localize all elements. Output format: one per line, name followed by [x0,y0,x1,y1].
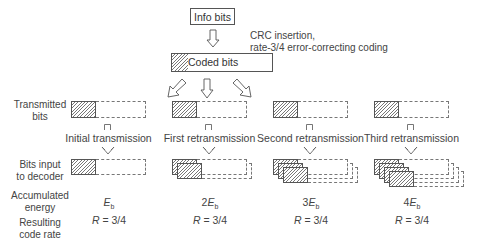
coded-bits-parity-hatch [172,54,188,71]
rate-value: = 3/4 [201,214,228,226]
decoder-stack-parity [283,167,308,183]
rate-value: = 3/4 [403,214,430,226]
decoder-stack-parity [177,163,202,179]
accumulated-energy-value: Eb [89,196,129,210]
rate-symbol: R [395,214,403,226]
transmitted-remaining-block [96,101,146,118]
coding-note-line1: CRC insertion, [250,30,388,42]
down-arrow-icon [206,30,220,48]
diagonal-right-arrow-icon [233,79,253,99]
rate-value: = 3/4 [302,214,329,226]
rate-symbol: R [294,214,302,226]
info-bits-label: Info bits [194,11,231,23]
row-label-transmitted: Transmitted bits [10,99,70,123]
open-down-arrow-icon [202,146,216,156]
bracket-icon [306,124,314,130]
transmitted-parity-block [273,101,298,118]
energy-subscript: b [214,203,218,210]
accumulated-energy-value: 2Eb [190,196,230,210]
row-label-energy: Accumulated energy [6,190,74,214]
code-rate-value: R = 3/4 [281,214,341,226]
energy-subscript: b [111,203,115,210]
decoder-stack-remaining [96,159,146,175]
decoder-stack-parity [389,171,414,187]
open-down-arrow-icon [101,146,115,156]
transmitted-parity-block [71,101,96,118]
transmitted-remaining-block [399,101,449,118]
column-title: Third retransmission [349,132,474,144]
energy-subscript: b [416,203,420,210]
bracket-icon [407,124,415,130]
energy-subscript: b [315,203,319,210]
code-rate-value: R = 3/4 [180,214,240,226]
decoder-stack-parity [71,159,96,175]
rate-value: = 3/4 [100,214,127,226]
row-label-decoder-line2: to decoder [10,171,70,183]
energy-symbol: E [104,196,111,208]
code-rate-value: R = 3/4 [79,214,139,226]
transmitted-parity-block [374,101,399,118]
coded-bits-label: Coded bits [188,56,238,68]
row-label-rate-line2: code rate [10,229,70,241]
code-rate-value: R = 3/4 [382,214,442,226]
accumulated-energy-value: 4Eb [392,196,432,210]
bracket-icon [205,124,213,130]
transmitted-parity-block [172,101,197,118]
info-bits-box: Info bits [190,8,235,25]
row-label-decoder: Bits input to decoder [10,159,70,183]
row-label-rate: Resulting code rate [10,217,70,241]
row-label-decoder-line1: Bits input [10,159,70,171]
bracket-icon [104,124,112,130]
row-label-energy-line1: Accumulated [6,190,74,202]
row-label-transmitted-line1: Transmitted [10,99,70,111]
rate-symbol: R [193,214,201,226]
transmitted-remaining-block [298,101,348,118]
transmitted-remaining-block [197,101,247,118]
down-arrow-icon [200,79,214,99]
rate-symbol: R [92,214,100,226]
coded-bits-box: Coded bits [171,53,273,72]
open-down-arrow-icon [404,146,418,156]
coding-note: CRC insertion, rate-3/4 error-correcting… [250,30,388,54]
row-label-rate-line1: Resulting [10,217,70,229]
diagonal-left-arrow-icon [167,79,187,99]
decoder-stack-remaining [197,159,247,175]
accumulated-energy-value: 3Eb [291,196,331,210]
row-label-transmitted-line2: bits [10,111,70,123]
row-label-energy-line2: energy [6,202,74,214]
open-down-arrow-icon [303,146,317,156]
